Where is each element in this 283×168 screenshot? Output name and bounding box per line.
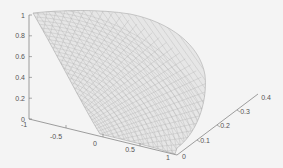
z-tick-label: 0.2 [15, 95, 25, 102]
x-tick-label: 1 [166, 154, 170, 161]
surface-plot: 0 0.2 0.4 0.6 0.8 1 -1 -0.5 0 0.5 1 0 0.… [0, 0, 283, 168]
x-tick-label: -0.5 [50, 133, 62, 140]
z-tick-label: 1 [21, 12, 25, 19]
z-axis: 0 0.2 0.4 0.6 0.8 1 [15, 12, 32, 123]
z-tick-label: 0.6 [15, 53, 25, 60]
y-tick-label: 0.3 [240, 108, 250, 115]
x-tick-label: -1 [21, 121, 27, 128]
y-tick-label: 0.2 [220, 122, 230, 129]
z-tick-label: 0.8 [15, 32, 25, 39]
y-tick-label: 0.1 [200, 137, 210, 144]
y-tick-label: 0.4 [261, 94, 271, 101]
y-tick-label: 0 [182, 153, 186, 160]
x-tick-label: 0.5 [125, 146, 135, 153]
x-tick-label: 0 [93, 140, 97, 147]
z-tick-label: 0.4 [15, 74, 25, 81]
